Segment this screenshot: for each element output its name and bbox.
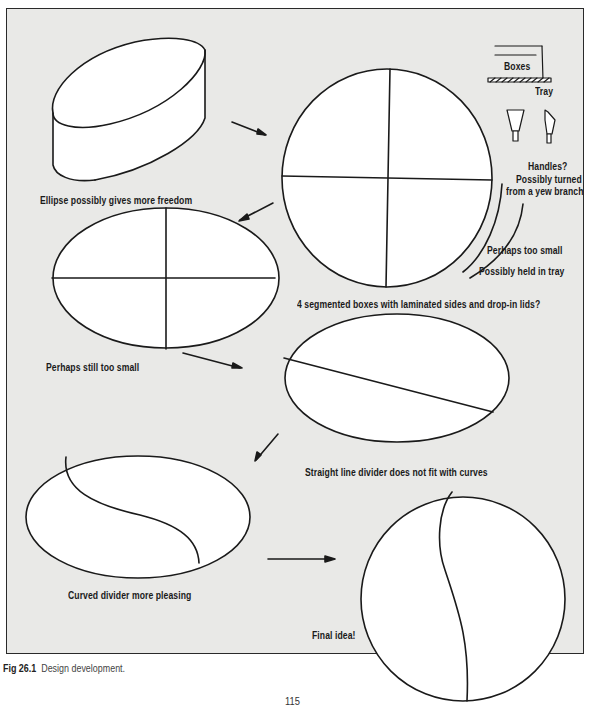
arrow-icon	[268, 556, 335, 562]
quartered-ellipse-sketch	[52, 208, 279, 349]
label-segmented: 4 segmented boxes with laminated sides a…	[297, 298, 540, 310]
label-straight-divider: Straight line divider does not fit with …	[305, 466, 488, 478]
label-handles: Handles?	[528, 160, 567, 172]
curved-divider-ellipse-sketch	[26, 456, 250, 578]
arrow-icon	[255, 434, 278, 461]
label-curved-divider: Curved divider more pleasing	[68, 589, 191, 601]
arrow-icon	[183, 353, 242, 368]
handle-sketch-2	[545, 110, 555, 143]
label-ellipse-freedom: Ellipse possibly gives more freedom	[40, 194, 192, 206]
handle-sketch-1	[507, 110, 524, 141]
oval-box-sketch	[52, 38, 205, 180]
label-handles-turned: Possibly turned	[516, 173, 582, 185]
quartered-circle-sketch	[282, 69, 492, 287]
page-number: 115	[285, 695, 300, 707]
final-circle-sketch	[361, 492, 565, 701]
design-development-sketches	[0, 0, 593, 715]
arrow-icon	[232, 122, 266, 135]
figure-caption: Fig 26.1 Design development.	[3, 662, 125, 674]
label-final-idea: Final idea!	[312, 629, 355, 641]
label-boxes: Boxes	[504, 60, 530, 72]
arrow-icon	[239, 203, 273, 221]
label-handles-yew: from a yew branch	[506, 185, 583, 197]
figure-number: Fig 26.1	[3, 662, 36, 674]
label-held-in-tray: Possibly held in tray	[479, 265, 564, 277]
figure-caption-text: Design development.	[41, 662, 125, 674]
straight-divider-ellipse-sketch	[284, 314, 509, 442]
label-tray: Tray	[535, 85, 553, 97]
label-still-too-small: Perhaps still too small	[46, 361, 139, 373]
label-too-small: Perhaps too small	[487, 244, 563, 256]
